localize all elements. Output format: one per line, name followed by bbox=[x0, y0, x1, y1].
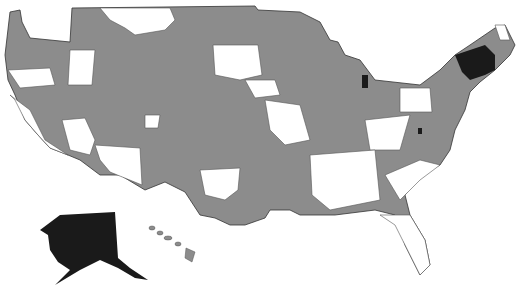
uncovered-sd bbox=[213, 45, 262, 80]
uncovered-oh-pa bbox=[400, 88, 432, 112]
hawaii bbox=[149, 226, 195, 262]
uncovered-fl bbox=[380, 215, 430, 275]
uncovered-co bbox=[145, 115, 160, 128]
uncovered-id bbox=[68, 50, 95, 85]
alaska bbox=[40, 212, 148, 285]
uncovered-ms-al bbox=[310, 150, 380, 210]
highlight-virginia bbox=[418, 128, 422, 134]
us-coverage-map bbox=[0, 0, 527, 289]
highlight-michigan bbox=[362, 75, 368, 88]
map-svg bbox=[0, 0, 527, 289]
